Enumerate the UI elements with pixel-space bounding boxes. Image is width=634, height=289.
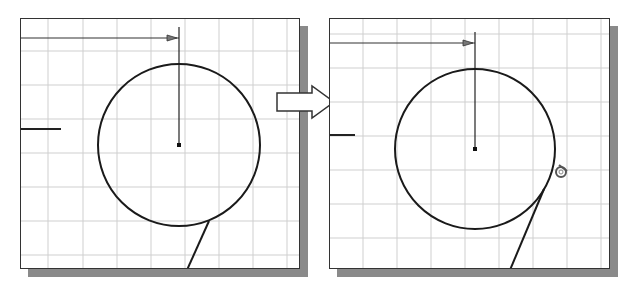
center-point[interactable] <box>177 143 181 147</box>
tangent-line[interactable] <box>510 189 544 269</box>
center-point[interactable] <box>473 147 477 151</box>
dimension-arrowhead-icon <box>463 40 473 46</box>
grid <box>330 19 610 269</box>
after-sketch-svg <box>330 19 610 269</box>
before-sketch-canvas[interactable] <box>20 18 300 269</box>
dimension-arrowhead-icon <box>167 35 177 41</box>
grid <box>21 19 300 269</box>
before-sketch-svg <box>21 19 300 269</box>
after-sketch-canvas[interactable] <box>329 18 610 269</box>
tangent-constraint-cursor-icon <box>556 165 567 177</box>
tangent-line[interactable] <box>187 221 209 269</box>
